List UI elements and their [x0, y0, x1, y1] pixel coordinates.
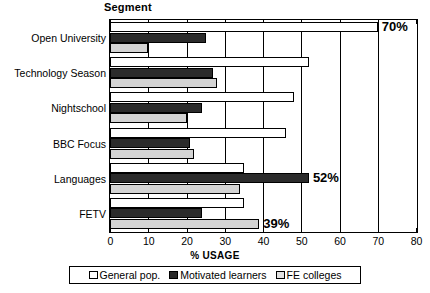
plot-area: 70%52%39%: [109, 19, 418, 233]
bar: [110, 103, 202, 113]
x-tick-label: 40: [258, 235, 270, 247]
bar: [110, 173, 309, 183]
category-axis-labels: Open UniversityTechnology SeasonNightsch…: [0, 19, 106, 233]
bar: [110, 113, 187, 123]
legend-label: FE colleges: [287, 269, 342, 281]
x-tick-label: 60: [334, 235, 346, 247]
x-tick-label: 20: [181, 235, 193, 247]
bar: [110, 57, 309, 67]
bar: [110, 184, 240, 194]
legend-label: General pop.: [100, 269, 161, 281]
x-tick-label: 0: [108, 235, 114, 247]
legend-item: General pop.: [89, 269, 161, 281]
bar: [110, 219, 259, 229]
legend-item: FE colleges: [276, 269, 342, 281]
bar: [110, 163, 244, 173]
bar: [110, 92, 294, 102]
bar: [110, 68, 213, 78]
x-axis-title: % USAGE: [0, 250, 430, 261]
x-tick-label: 70: [372, 235, 384, 247]
bar-value-label: 39%: [263, 217, 289, 230]
bar: [110, 43, 148, 53]
legend-item: Motivated learners: [169, 269, 266, 281]
x-tick-label: 80: [411, 235, 423, 247]
chart-legend: General pop.Motivated learnersFE college…: [69, 266, 361, 284]
x-tick-label: 50: [296, 235, 308, 247]
chart-title-segment: Segment: [104, 0, 152, 14]
bar-group: 39%: [110, 196, 417, 231]
bar-group: [110, 55, 417, 90]
legend-label: Motivated learners: [180, 269, 266, 281]
bar: [110, 78, 217, 88]
bar-value-label: 52%: [313, 171, 339, 184]
x-tick-label: 10: [143, 235, 155, 247]
category-label: BBC Focus: [2, 138, 106, 150]
category-label: Nightschool: [2, 102, 106, 114]
bar-group: 70%: [110, 20, 417, 55]
bar-group: [110, 126, 417, 161]
x-axis-tick-labels: 01020304050607080: [109, 235, 418, 249]
bar-group: 52%: [110, 161, 417, 196]
x-tick-label: 30: [219, 235, 231, 247]
bar-group: [110, 90, 417, 125]
bar: [110, 208, 202, 218]
category-label: Open University: [2, 32, 106, 44]
bar: [110, 33, 206, 43]
legend-swatch-fecol: [276, 271, 285, 279]
bar: [110, 198, 244, 208]
category-label: FETV: [2, 208, 106, 220]
bar-value-label: 70%: [382, 20, 408, 33]
bar: [110, 149, 194, 159]
chart-root: Segment Open UniversityTechnology Season…: [0, 0, 430, 293]
category-label: Technology Season: [2, 67, 106, 79]
legend-swatch-general: [89, 271, 98, 279]
bar: [110, 138, 190, 148]
plot-inner: 70%52%39%: [110, 20, 417, 232]
bar: [110, 22, 378, 32]
bar: [110, 128, 286, 138]
category-label: Languages: [2, 173, 106, 185]
legend-swatch-motiv: [169, 271, 178, 279]
